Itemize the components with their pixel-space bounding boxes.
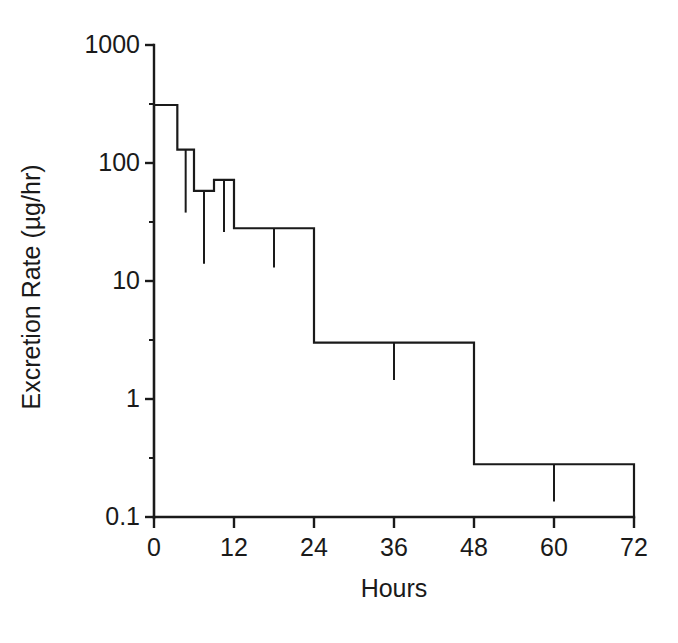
x-tick-label: 12 (220, 533, 248, 561)
x-tick-label: 72 (620, 533, 648, 561)
x-axis-tick-labels: 0 12 24 36 48 60 72 (147, 533, 648, 561)
excretion-rate-step-chart: 1000 100 10 1 0.1 (0, 0, 678, 643)
y-axis-major-ticks (145, 45, 154, 517)
y-tick-label: 0.1 (105, 502, 140, 530)
x-axis-title: Hours (361, 574, 428, 602)
x-axis-major-ticks (154, 517, 634, 528)
y-axis-tick-labels: 1000 100 10 1 0.1 (84, 30, 140, 530)
x-tick-label: 60 (540, 533, 568, 561)
x-tick-label: 0 (147, 533, 161, 561)
y-tick-label: 10 (112, 266, 140, 294)
x-tick-label: 48 (460, 533, 488, 561)
y-tick-label: 100 (98, 148, 140, 176)
x-tick-label: 24 (300, 533, 328, 561)
y-axis-title: Excretion Rate (µg/hr) (17, 164, 45, 409)
data-series-step-curve (154, 105, 634, 517)
y-tick-label: 1 (126, 384, 140, 412)
chart-figure: 1000 100 10 1 0.1 (0, 0, 678, 643)
y-tick-label: 1000 (84, 30, 140, 58)
x-tick-label: 36 (380, 533, 408, 561)
step-curve (154, 105, 634, 517)
